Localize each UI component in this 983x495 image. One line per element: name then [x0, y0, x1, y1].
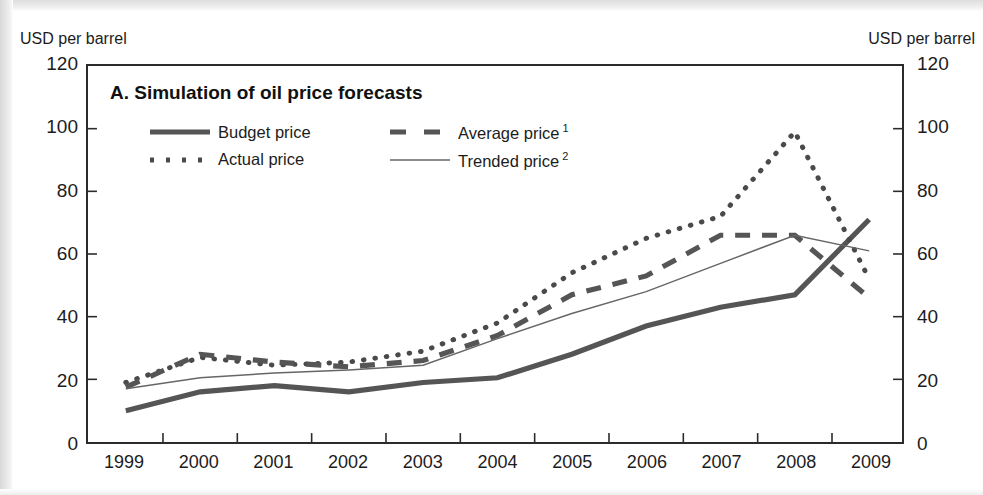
series-line-trended-price [126, 235, 869, 389]
x-tick-label-2003: 2003 [403, 452, 443, 473]
legend-label-trended-price: Trended price2 [458, 150, 569, 171]
y-tick-label-left-80: 80 [57, 181, 78, 200]
data-series-group [126, 132, 869, 411]
thick-dashed-line-swatch [388, 125, 452, 139]
y-tick-label-right-100: 100 [917, 117, 949, 136]
y-tick-label-right-20: 20 [917, 371, 938, 390]
chart-legend: Budget price Average price1 Actual price… [148, 122, 569, 170]
x-tick-label-2004: 2004 [477, 452, 517, 473]
y-tick-label-left-20: 20 [57, 371, 78, 390]
page-edge-top-shadow [0, 0, 983, 11]
legend-swatch-trended-price [388, 153, 458, 167]
legend-label-budget-price: Budget price [218, 123, 388, 142]
y-axis-labels-left: 120100806040200 [16, 0, 78, 495]
page-edge-bottom-shadow [0, 489, 983, 495]
chart-figure: USD per barrel USD per barrel 1201008060… [0, 0, 983, 495]
thick-solid-line-swatch [148, 125, 212, 139]
legend-swatch-budget-price [148, 125, 218, 139]
y-tick-label-right-60: 60 [917, 244, 938, 263]
legend-footnote-trended-price: 2 [559, 150, 568, 162]
y-tick-label-left-40: 40 [57, 307, 78, 326]
x-tick-label-2000: 2000 [179, 452, 219, 473]
y-tick-label-right-80: 80 [917, 181, 938, 200]
legend-text-trended-price: Trended price [458, 151, 559, 169]
x-tick-label-2007: 2007 [702, 452, 742, 473]
y-tick-label-right-120: 120 [917, 54, 949, 73]
x-tick-label-2005: 2005 [552, 452, 592, 473]
legend-text-budget-price: Budget price [218, 123, 311, 141]
y-tick-label-left-100: 100 [46, 117, 78, 136]
x-tick-label-2002: 2002 [328, 452, 368, 473]
x-ticks [163, 433, 832, 442]
legend-swatch-actual-price [148, 153, 218, 167]
y-ticks-left [88, 129, 97, 380]
x-tick-label-2009: 2009 [851, 452, 891, 473]
series-line-budget-price [126, 220, 869, 411]
legend-footnote-average-price: 1 [560, 122, 569, 134]
legend-swatch-average-price [388, 125, 458, 139]
page-edge-left-shadow [0, 0, 13, 495]
plot-area: A. Simulation of oil price forecasts Bud… [86, 64, 904, 444]
legend-text-average-price: Average price [458, 124, 560, 142]
series-line-average-price [126, 235, 869, 387]
x-tick-label-2006: 2006 [627, 452, 667, 473]
y-tick-label-left-120: 120 [46, 54, 78, 73]
legend-label-actual-price: Actual price [218, 150, 388, 169]
y-tick-label-right-0: 0 [917, 434, 928, 453]
x-tick-label-2008: 2008 [776, 452, 816, 473]
legend-text-actual-price: Actual price [218, 150, 304, 168]
y-tick-label-right-40: 40 [917, 307, 938, 326]
panel-title: A. Simulation of oil price forecasts [110, 82, 423, 104]
y-tick-label-left-0: 0 [67, 434, 78, 453]
legend-label-average-price: Average price1 [458, 122, 569, 143]
x-tick-label-1999: 1999 [104, 452, 144, 473]
y-axis-labels-right: 120100806040200 [917, 0, 977, 495]
x-tick-label-2001: 2001 [253, 452, 293, 473]
dotted-line-swatch [148, 153, 212, 167]
y-ticks-right [893, 129, 902, 380]
y-tick-label-left-60: 60 [57, 244, 78, 263]
thin-solid-line-swatch [388, 153, 452, 167]
